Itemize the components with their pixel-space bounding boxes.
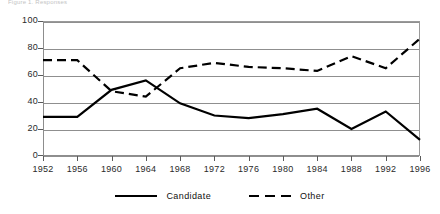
x-axis-tick xyxy=(146,156,147,161)
x-axis-tick xyxy=(77,156,78,161)
legend-label: Candidate xyxy=(166,191,211,201)
x-axis-tick xyxy=(317,156,318,161)
y-axis-tick-label: 60 xyxy=(4,70,38,79)
chart-legend: CandidateOther xyxy=(0,188,440,204)
series-lines xyxy=(43,21,420,156)
x-axis-tick xyxy=(249,156,250,161)
series-line-candidate xyxy=(43,80,420,139)
legend-label: Other xyxy=(300,191,325,201)
x-axis-tick xyxy=(351,156,352,161)
y-axis-tick-label: 40 xyxy=(4,97,38,106)
x-axis-ticks xyxy=(43,156,420,162)
y-axis-tick xyxy=(38,21,43,22)
y-axis-tick-label: 100 xyxy=(4,16,38,25)
x-axis-labels: 1952195619601964196819721976198019841988… xyxy=(43,164,420,176)
y-axis-tick-label: 80 xyxy=(4,43,38,52)
clipped-top-caption: Figure 1. Responses xyxy=(8,0,136,5)
chart-figure: Figure 1. Responses 020406080100 1952195… xyxy=(0,0,440,214)
legend-swatch-dashed xyxy=(249,191,291,201)
y-axis-labels: 020406080100 xyxy=(0,21,38,156)
y-axis-tick xyxy=(38,48,43,49)
legend-item-other[interactable]: Other xyxy=(249,191,325,201)
x-axis-tick xyxy=(43,156,44,161)
y-axis-tick-label: 0 xyxy=(4,151,38,160)
y-axis-tick xyxy=(38,75,43,76)
x-axis-tick xyxy=(214,156,215,161)
y-axis-tick-label: 20 xyxy=(4,124,38,133)
x-axis-tick xyxy=(283,156,284,161)
x-axis-tick xyxy=(420,156,421,161)
x-axis-tick xyxy=(386,156,387,161)
y-axis-tick xyxy=(38,102,43,103)
x-axis-tick xyxy=(180,156,181,161)
series-line-other xyxy=(43,39,420,97)
x-axis-tick xyxy=(112,156,113,161)
y-axis-tick xyxy=(38,129,43,130)
legend-item-candidate[interactable]: Candidate xyxy=(115,191,211,201)
x-axis-tick-label: 1996 xyxy=(400,164,440,174)
legend-swatch-solid xyxy=(115,191,157,201)
